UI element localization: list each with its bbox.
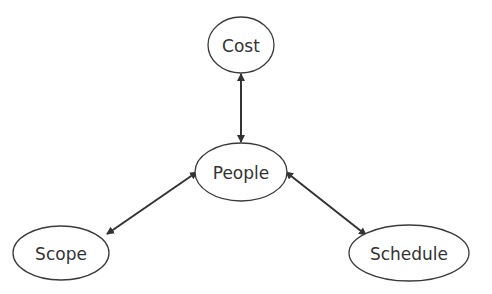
node-scope: Scope xyxy=(13,226,109,280)
cost-label: Cost xyxy=(222,36,260,56)
edge-people-scope xyxy=(107,172,197,234)
node-people: People xyxy=(195,143,287,201)
scope-label: Scope xyxy=(35,244,87,264)
schedule-label: Schedule xyxy=(370,244,448,264)
edge-people-schedule xyxy=(286,172,366,235)
people-label: People xyxy=(213,163,269,183)
node-schedule: Schedule xyxy=(349,225,469,281)
node-cost: Cost xyxy=(208,17,274,73)
diagram-canvas: Cost People Scope Schedule xyxy=(0,0,492,294)
